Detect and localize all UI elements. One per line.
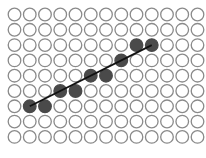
empty-pixel — [145, 85, 158, 98]
empty-pixel — [69, 69, 82, 82]
empty-pixel — [8, 85, 21, 98]
empty-pixel — [115, 115, 128, 128]
empty-pixel — [8, 69, 21, 82]
empty-pixel — [130, 85, 143, 98]
empty-pixel — [39, 8, 52, 21]
empty-pixel — [161, 131, 174, 144]
empty-pixel — [176, 69, 189, 82]
empty-pixel — [23, 54, 36, 67]
empty-pixel — [69, 115, 82, 128]
empty-pixel — [54, 69, 67, 82]
empty-pixel — [130, 115, 143, 128]
empty-pixel — [8, 54, 21, 67]
empty-pixel — [39, 69, 52, 82]
empty-pixel — [54, 131, 67, 144]
empty-pixel — [145, 131, 158, 144]
empty-pixel — [130, 100, 143, 113]
empty-pixel — [161, 100, 174, 113]
rasterization-grid — [0, 0, 206, 158]
empty-pixel — [84, 39, 97, 52]
empty-pixel — [8, 8, 21, 21]
empty-pixel — [191, 131, 204, 144]
empty-pixel — [130, 131, 143, 144]
empty-pixel — [115, 8, 128, 21]
empty-pixel — [161, 8, 174, 21]
empty-pixel — [115, 39, 128, 52]
empty-pixel — [176, 115, 189, 128]
empty-pixel — [54, 54, 67, 67]
empty-pixel — [54, 39, 67, 52]
empty-pixel — [176, 8, 189, 21]
empty-pixel — [191, 8, 204, 21]
empty-pixel — [39, 24, 52, 37]
empty-pixel — [8, 100, 21, 113]
empty-pixel — [100, 54, 113, 67]
empty-pixel — [39, 54, 52, 67]
empty-pixel — [69, 24, 82, 37]
empty-pixel — [100, 85, 113, 98]
empty-pixel — [176, 85, 189, 98]
empty-pixel — [39, 131, 52, 144]
empty-pixel — [84, 85, 97, 98]
empty-pixel — [161, 69, 174, 82]
empty-pixel — [8, 39, 21, 52]
empty-pixel — [84, 100, 97, 113]
empty-pixel — [54, 24, 67, 37]
empty-pixel — [54, 8, 67, 21]
empty-pixel — [84, 24, 97, 37]
empty-pixel — [161, 39, 174, 52]
empty-pixel — [84, 115, 97, 128]
empty-pixel — [23, 85, 36, 98]
empty-pixel — [191, 54, 204, 67]
empty-pixel — [100, 8, 113, 21]
empty-pixel — [145, 24, 158, 37]
empty-pixel — [191, 85, 204, 98]
empty-pixel — [161, 54, 174, 67]
filled-pixel — [69, 85, 82, 98]
empty-pixel — [176, 39, 189, 52]
empty-pixel — [100, 39, 113, 52]
empty-pixel — [191, 100, 204, 113]
empty-pixel — [161, 24, 174, 37]
filled-pixel — [130, 39, 143, 52]
empty-pixel — [115, 24, 128, 37]
empty-pixel — [84, 131, 97, 144]
empty-pixel — [130, 54, 143, 67]
empty-pixel — [39, 39, 52, 52]
empty-pixel — [130, 24, 143, 37]
empty-pixel — [191, 69, 204, 82]
empty-pixel — [54, 115, 67, 128]
empty-pixel — [8, 24, 21, 37]
empty-pixel — [191, 24, 204, 37]
empty-pixel — [100, 24, 113, 37]
empty-pixel — [23, 8, 36, 21]
empty-pixel — [69, 100, 82, 113]
empty-pixel — [115, 131, 128, 144]
empty-pixel — [100, 100, 113, 113]
empty-pixel — [176, 54, 189, 67]
empty-pixel — [130, 69, 143, 82]
empty-pixel — [145, 100, 158, 113]
empty-pixel — [84, 8, 97, 21]
empty-pixel — [115, 85, 128, 98]
empty-pixel — [8, 115, 21, 128]
empty-pixel — [69, 39, 82, 52]
empty-pixel — [84, 54, 97, 67]
filled-pixel — [100, 69, 113, 82]
empty-pixel — [39, 115, 52, 128]
empty-pixel — [54, 100, 67, 113]
empty-pixel — [23, 131, 36, 144]
empty-pixel — [23, 39, 36, 52]
empty-pixel — [115, 100, 128, 113]
empty-pixel — [69, 131, 82, 144]
empty-pixel — [176, 100, 189, 113]
empty-pixel — [145, 8, 158, 21]
empty-pixel — [23, 115, 36, 128]
empty-pixel — [8, 131, 21, 144]
empty-pixel — [145, 54, 158, 67]
empty-pixel — [191, 39, 204, 52]
empty-pixel — [176, 24, 189, 37]
empty-pixel — [69, 54, 82, 67]
empty-pixel — [130, 8, 143, 21]
empty-pixel — [176, 131, 189, 144]
